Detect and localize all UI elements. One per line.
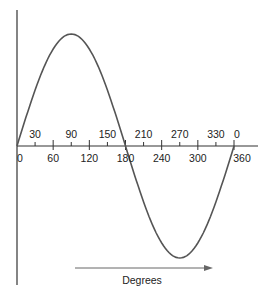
lower-tick-labels: 060120180240300360 (17, 152, 251, 164)
tick-label: 120 (81, 152, 99, 164)
tick-label: 240 (153, 152, 171, 164)
tick-label: 180 (117, 152, 135, 164)
tick-label: 360 (233, 152, 251, 164)
tick-label: 60 (47, 152, 59, 164)
tick-label: 330 (207, 128, 225, 140)
x-axis-ticks (35, 140, 234, 150)
tick-label: 90 (65, 128, 77, 140)
sine-wave-diagram: 30901502102703300 060120180240300360 Deg… (0, 0, 273, 293)
tick-label: 210 (135, 128, 153, 140)
tick-label: 300 (189, 152, 207, 164)
x-axis-title: Degrees (122, 274, 162, 286)
tick-label: 0 (17, 152, 23, 164)
tick-label: 270 (171, 128, 189, 140)
tick-label: 150 (99, 128, 117, 140)
tick-label: 30 (29, 128, 41, 140)
arrow-head-icon (204, 265, 213, 271)
upper-tick-labels: 30901502102703300 (29, 128, 240, 140)
tick-label: 0 (234, 128, 240, 140)
